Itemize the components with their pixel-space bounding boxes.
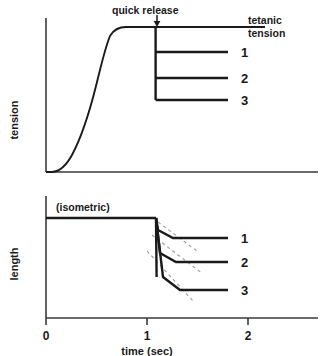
length-label-3: 3 [241, 283, 248, 298]
length-label-2: 2 [241, 255, 248, 270]
length-release-drop-line [156, 218, 157, 277]
tangent-line-1 [158, 222, 197, 251]
x-tick-label-0: 0 [43, 329, 50, 343]
length-panel: length (isometric) 1 2 3 0 1 2 time (sec… [8, 196, 318, 356]
quick-release-annotation: quick release [112, 4, 179, 16]
x-tick-label-2: 2 [245, 329, 252, 343]
isometric-annotation: (isometric) [56, 201, 110, 213]
length-release-trace-3 [156, 218, 228, 290]
tension-label-2: 2 [241, 71, 248, 86]
muscle-quick-release-figure: tension quick release tetanic tension 1 … [0, 0, 324, 356]
length-release-trace-2 [156, 218, 228, 262]
down-arrow-icon [154, 15, 161, 27]
tension-y-axis-label: tension [8, 100, 20, 139]
length-release-trace-1 [156, 218, 228, 238]
length-y-axis-label: length [8, 247, 20, 280]
length-x-axis-label: time (sec) [121, 345, 173, 356]
tetanic-tension-label-line1: tetanic [248, 14, 282, 26]
tetanic-tension-label-line2: tension [248, 27, 285, 39]
tension-label-1: 1 [241, 45, 248, 60]
x-tick-label-1: 1 [144, 329, 151, 343]
tension-label-3: 3 [241, 93, 248, 108]
length-label-1: 1 [241, 231, 248, 246]
tension-panel: tension quick release tetanic tension 1 … [8, 4, 318, 172]
